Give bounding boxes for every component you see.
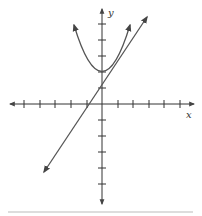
graph: x y xyxy=(0,0,202,216)
y-axis-label: y xyxy=(107,7,114,18)
y-axis: y xyxy=(98,7,114,204)
x-axis-label: x xyxy=(186,109,192,120)
linear-function-line xyxy=(44,17,147,172)
